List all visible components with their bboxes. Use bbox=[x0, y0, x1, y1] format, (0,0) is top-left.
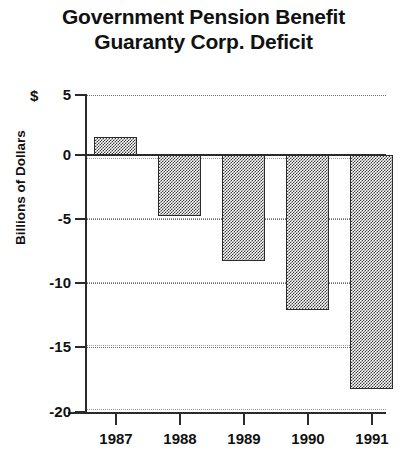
zero-baseline bbox=[86, 154, 386, 156]
y-tick-label--10: -10 bbox=[11, 275, 71, 290]
x-tick-1991 bbox=[371, 414, 373, 425]
bar-1988[interactable] bbox=[158, 155, 201, 216]
y-tick--5 bbox=[75, 218, 86, 220]
x-tick-1989 bbox=[243, 414, 245, 425]
x-tick-label-1988: 1988 bbox=[145, 430, 215, 447]
x-tick-label-1987: 1987 bbox=[81, 430, 151, 447]
y-axis-spine bbox=[85, 94, 87, 414]
chart-title-line-2: Guaranty Corp. Deficit bbox=[0, 29, 407, 54]
chart-title-line-1: Government Pension Benefit bbox=[0, 4, 407, 29]
x-tick-label-1989: 1989 bbox=[209, 430, 279, 447]
y-tick--20 bbox=[75, 411, 86, 413]
x-tick-1988 bbox=[179, 414, 181, 425]
y-axis-title: Billions of Dollars bbox=[13, 108, 28, 268]
x-tick-label-1991: 1991 bbox=[337, 430, 407, 447]
gridline-major--10 bbox=[86, 283, 386, 285]
y-tick-label--5: -5 bbox=[11, 211, 71, 226]
y-tick-5 bbox=[75, 94, 86, 96]
y-tick-label-0: 0 bbox=[11, 147, 71, 162]
chart-title: Government Pension Benefit Guaranty Corp… bbox=[0, 4, 407, 54]
plot-area bbox=[86, 95, 386, 413]
y-tick--10 bbox=[75, 282, 86, 284]
y-tick-label--15: -15 bbox=[11, 339, 71, 354]
y-tick-label-5: 5 bbox=[11, 87, 71, 102]
y-tick--15 bbox=[75, 346, 86, 348]
x-tick-1987 bbox=[115, 414, 117, 425]
bar-1991[interactable] bbox=[350, 155, 393, 389]
gridline-major--15 bbox=[86, 347, 386, 349]
y-tick-0 bbox=[75, 154, 86, 156]
x-tick-1990 bbox=[307, 414, 309, 425]
bar-1989[interactable] bbox=[222, 155, 265, 261]
gridline-major-5 bbox=[86, 95, 386, 97]
bar-1990[interactable] bbox=[286, 155, 329, 310]
x-tick-label-1990: 1990 bbox=[273, 430, 343, 447]
gridline-minor--17_5 bbox=[86, 409, 386, 411]
y-tick-label--20: -20 bbox=[11, 404, 71, 419]
